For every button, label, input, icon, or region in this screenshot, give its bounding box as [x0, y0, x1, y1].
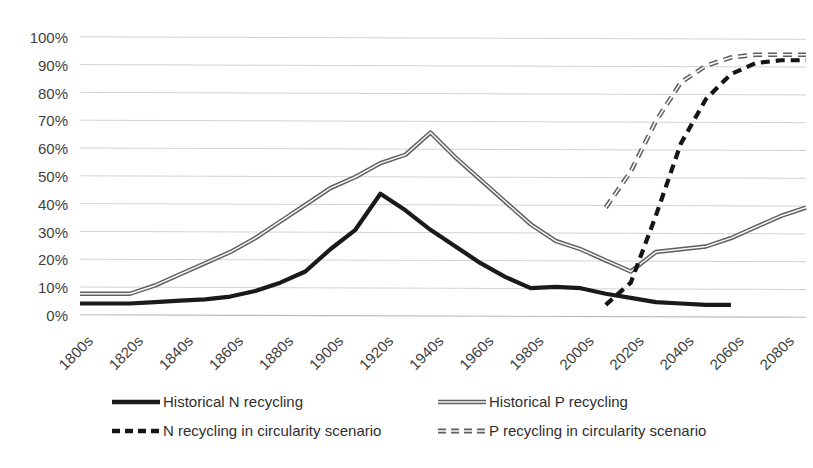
x-tick-label-group: 1820s — [105, 332, 146, 373]
x-tick-label: 1960s — [456, 332, 497, 373]
gridline-10 — [80, 287, 806, 290]
x-tick-label: 1860s — [205, 332, 246, 373]
x-tick-label: 2000s — [556, 332, 597, 373]
x-tick-label-group: 2000s — [556, 332, 597, 373]
x-tick-label: 1840s — [155, 332, 196, 373]
x-tick-label: 1820s — [105, 332, 146, 373]
gridline-20 — [80, 259, 806, 262]
x-axis-baseline — [80, 315, 806, 318]
legend-entry[interactable]: Historical N recycling — [112, 393, 303, 410]
x-tick-label-group: 1960s — [456, 332, 497, 373]
x-tick-label: 1980s — [506, 332, 547, 373]
recycling-trends-line-chart: 0%10%20%30%40%50%60%70%80%90%100% 1800s1… — [0, 0, 813, 468]
x-tick-label-group: 2040s — [656, 332, 697, 373]
series-line-2 — [606, 60, 806, 305]
gridline-40 — [80, 204, 806, 207]
x-tick-label: 2040s — [656, 332, 697, 373]
series-line-3 — [606, 55, 806, 208]
gridlines — [80, 37, 806, 318]
data-series-group — [80, 55, 806, 305]
series-line-1 — [80, 133, 806, 294]
legend-entry[interactable]: Historical P recycling — [438, 393, 628, 410]
gridline-70 — [80, 120, 806, 123]
gridline-30 — [80, 231, 806, 234]
legend-entry[interactable]: P recycling in circularity scenario — [438, 422, 706, 439]
x-axis-tick-labels: 1800s1820s1840s1860s1880s1900s1920s1940s… — [55, 332, 797, 373]
y-tick-label: 80% — [38, 85, 68, 102]
y-tick-label: 30% — [38, 224, 68, 241]
y-tick-label: 40% — [38, 196, 68, 213]
chart-legend: Historical N recyclingHistorical P recyc… — [112, 393, 706, 439]
x-tick-label: 1880s — [255, 332, 296, 373]
x-tick-label-group: 1920s — [356, 332, 397, 373]
x-tick-label: 1920s — [356, 332, 397, 373]
x-tick-label-group: 2020s — [606, 332, 647, 373]
legend-label: N recycling in circularity scenario — [163, 422, 381, 439]
legend-label: Historical N recycling — [163, 393, 303, 410]
x-tick-label: 2060s — [706, 332, 747, 373]
y-tick-label: 0% — [46, 307, 68, 324]
x-tick-label-group: 2060s — [706, 332, 747, 373]
y-axis-tick-labels: 0%10%20%30%40%50%60%70%80%90%100% — [30, 29, 68, 324]
legend-label: P recycling in circularity scenario — [489, 422, 706, 439]
chart-canvas: 0%10%20%30%40%50%60%70%80%90%100% 1800s1… — [0, 0, 813, 468]
legend-entry[interactable]: N recycling in circularity scenario — [112, 422, 381, 439]
x-tick-label-group: 1900s — [306, 332, 347, 373]
series-line-3-highlight — [606, 55, 806, 208]
x-tick-label-group: 2080s — [756, 332, 797, 373]
x-tick-label-group: 1860s — [205, 332, 246, 373]
x-tick-label-group: 1800s — [55, 332, 96, 373]
y-tick-label: 10% — [38, 279, 68, 296]
x-tick-label-group: 1980s — [506, 332, 547, 373]
gridline-50 — [80, 176, 806, 179]
x-tick-label-group: 1880s — [255, 332, 296, 373]
x-tick-label-group: 1840s — [155, 332, 196, 373]
y-tick-label: 90% — [38, 57, 68, 74]
x-tick-label-group: 1940s — [406, 332, 447, 373]
x-tick-label: 2020s — [606, 332, 647, 373]
x-tick-label: 2080s — [756, 332, 797, 373]
x-tick-label: 1800s — [55, 332, 96, 373]
gridline-60 — [80, 148, 806, 151]
y-tick-label: 100% — [30, 29, 68, 46]
legend-label: Historical P recycling — [489, 393, 628, 410]
y-tick-label: 50% — [38, 168, 68, 185]
y-tick-label: 60% — [38, 140, 68, 157]
y-tick-label: 20% — [38, 251, 68, 268]
gridline-80 — [80, 92, 806, 95]
x-tick-label: 1940s — [406, 332, 447, 373]
y-tick-label: 70% — [38, 112, 68, 129]
gridline-90 — [80, 65, 806, 68]
x-tick-label: 1900s — [306, 332, 347, 373]
gridline-100 — [80, 37, 806, 40]
